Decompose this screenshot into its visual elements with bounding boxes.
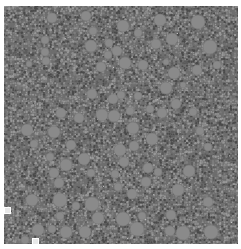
large-particle: [87, 89, 97, 99]
large-particle: [47, 13, 57, 23]
large-particle: [117, 91, 125, 99]
large-particle: [180, 82, 186, 88]
large-particle: [204, 143, 212, 151]
large-particle: [92, 212, 104, 224]
large-particle: [134, 92, 142, 100]
large-particle: [53, 193, 67, 207]
large-particle: [85, 40, 97, 52]
large-particle: [85, 197, 99, 211]
large-particle: [127, 189, 137, 199]
large-particle: [154, 14, 166, 26]
large-particle: [60, 226, 72, 238]
large-particle: [119, 157, 129, 167]
large-particle: [126, 107, 134, 115]
large-particle: [203, 197, 213, 207]
large-particle: [203, 40, 217, 54]
large-particle: [129, 141, 139, 151]
large-particle: [46, 153, 54, 161]
large-particle: [176, 226, 190, 240]
large-particle: [104, 51, 112, 59]
large-particle: [117, 20, 129, 32]
large-particle: [66, 140, 76, 150]
large-particle: [48, 126, 60, 138]
large-particle: [30, 140, 38, 148]
large-particle: [213, 61, 221, 69]
large-particle: [41, 48, 49, 56]
large-particle: [89, 27, 97, 35]
large-particle: [143, 163, 153, 173]
large-particle: [171, 99, 181, 109]
large-particle: [163, 59, 169, 65]
large-particle: [79, 226, 91, 238]
large-particle: [54, 178, 64, 188]
large-particle: [96, 109, 108, 121]
large-particle: [166, 33, 178, 45]
large-particle: [21, 124, 33, 136]
large-particle: [32, 224, 44, 236]
large-particle: [166, 210, 176, 220]
large-particle: [21, 236, 29, 244]
large-particle: [189, 108, 197, 116]
large-particle: [49, 168, 59, 178]
large-particle: [146, 133, 158, 145]
large-particle: [154, 168, 162, 176]
large-particle: [60, 159, 72, 171]
large-particle: [105, 39, 113, 47]
scale-marker: [32, 238, 39, 245]
large-particle: [78, 153, 90, 165]
large-particle: [138, 60, 148, 70]
large-particle: [114, 183, 122, 191]
large-particle: [165, 226, 175, 236]
large-particle: [96, 62, 106, 72]
large-particle: [56, 212, 64, 220]
large-particle: [26, 194, 38, 206]
large-particle: [134, 29, 142, 37]
large-particle: [157, 108, 167, 118]
large-particle: [114, 144, 126, 156]
large-particle: [172, 184, 184, 196]
large-particle: [41, 36, 49, 44]
large-particle: [72, 202, 80, 210]
large-particle: [141, 177, 151, 187]
large-particle: [74, 113, 84, 123]
large-particle: [146, 105, 154, 113]
large-particle: [111, 170, 119, 178]
large-particle: [87, 169, 95, 177]
large-particle: [204, 225, 218, 239]
large-particle: [42, 57, 50, 65]
particle-micrograph: [0, 0, 241, 249]
large-particle: [168, 67, 180, 79]
micrograph-panel: [4, 6, 238, 244]
large-particle: [127, 122, 139, 134]
large-particle: [112, 46, 122, 56]
large-particle: [183, 165, 195, 177]
large-particle: [56, 108, 66, 118]
large-particle: [26, 61, 32, 67]
large-particle: [130, 222, 144, 236]
large-particle: [151, 39, 161, 49]
large-particle: [191, 15, 205, 29]
large-particle: [108, 94, 118, 104]
large-particle: [119, 57, 131, 69]
large-particle: [160, 82, 172, 94]
large-particle: [138, 212, 146, 220]
large-particle: [108, 110, 120, 122]
large-particle: [116, 212, 130, 226]
large-particle: [192, 65, 202, 75]
scale-marker: [4, 207, 11, 214]
large-particle: [196, 127, 204, 135]
large-particle: [81, 11, 91, 21]
large-particle: [48, 225, 56, 233]
particle-field: [4, 6, 238, 244]
